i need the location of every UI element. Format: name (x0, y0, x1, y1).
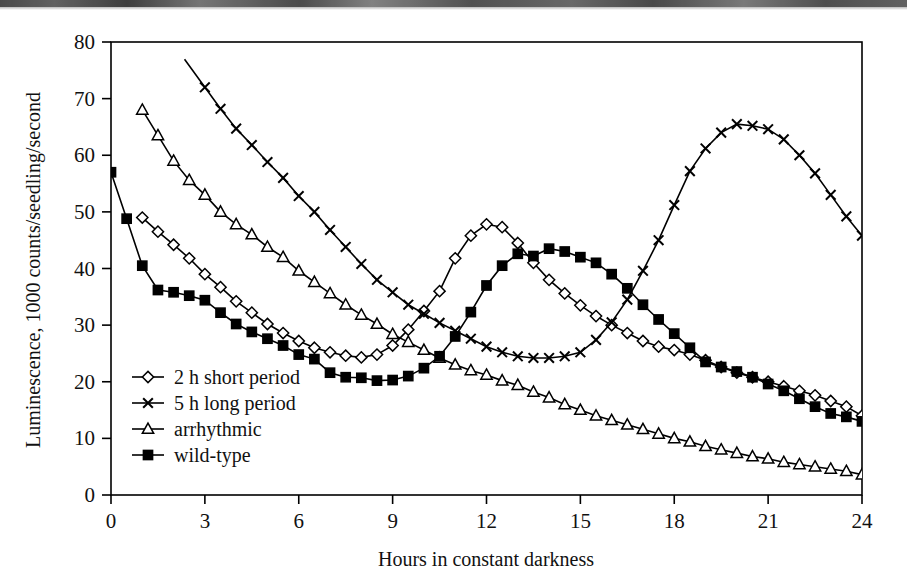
data-point-cross-x (497, 347, 507, 357)
legend-label: arrhythmic (174, 418, 262, 441)
data-point-filled-square (388, 375, 397, 384)
data-point-open-triangle (168, 155, 179, 165)
data-point-filled-square (185, 291, 194, 300)
data-point-open-triangle (309, 276, 320, 286)
data-point-cross-x (779, 135, 789, 145)
data-point-open-triangle (230, 218, 241, 228)
data-point-open-triangle (418, 344, 429, 354)
data-point-open-triangle (340, 299, 351, 309)
legend-label: 5 h long period (174, 392, 296, 415)
data-point-cross-x (654, 235, 664, 245)
data-point-filled-square (341, 373, 350, 382)
data-point-open-triangle (387, 328, 398, 338)
data-point-open-diamond (653, 341, 664, 352)
data-point-filled-square (623, 284, 632, 293)
data-point-open-triangle (559, 398, 570, 408)
data-point-filled-square (544, 244, 553, 253)
data-point-cross-x (294, 191, 304, 201)
data-point-filled-square (122, 214, 131, 223)
data-point-filled-square (404, 371, 413, 380)
data-point-filled-square (169, 288, 178, 297)
data-point-cross-x (826, 190, 836, 200)
data-point-filled-square (779, 386, 788, 395)
series-5-h-long-period (185, 59, 867, 362)
data-point-filled-square (638, 300, 647, 309)
x-tick-label: 6 (294, 509, 305, 533)
data-point-cross-x (466, 334, 476, 344)
data-point-open-diamond (278, 327, 289, 338)
data-point-filled-square (842, 412, 851, 421)
data-point-filled-square (685, 343, 694, 352)
data-point-open-diamond (590, 310, 601, 321)
data-point-open-diamond (465, 230, 476, 241)
data-point-cross-x (200, 82, 210, 92)
y-tick-label: 60 (74, 143, 95, 167)
data-point-cross-x (576, 347, 586, 357)
data-point-filled-square (654, 315, 663, 324)
data-point-open-diamond (262, 318, 273, 329)
data-point-cross-x (591, 335, 601, 345)
data-point-open-triangle (356, 309, 367, 319)
x-axis-ticks (111, 495, 862, 504)
data-point-cross-x (278, 173, 288, 183)
data-point-filled-square (263, 334, 272, 343)
legend-item-2-h-short-period[interactable]: 2 h short period (132, 366, 300, 389)
data-point-cross-x (842, 212, 852, 222)
data-point-open-triangle (403, 336, 414, 346)
data-point-open-triangle (277, 251, 288, 261)
data-point-open-diamond (356, 352, 367, 363)
data-point-filled-square (670, 329, 679, 338)
data-point-cross-x (403, 300, 413, 310)
data-point-open-triangle (528, 386, 539, 396)
data-point-open-diamond (293, 335, 304, 346)
y-tick-label: 20 (74, 370, 95, 394)
y-tick-label: 40 (74, 257, 95, 281)
data-point-filled-square (310, 355, 319, 364)
data-point-filled-square (764, 379, 773, 388)
data-point-filled-square (279, 341, 288, 350)
data-point-open-diamond (142, 371, 153, 382)
data-point-cross-x (435, 318, 445, 328)
data-point-open-diamond (637, 335, 648, 346)
data-point-filled-square (810, 402, 819, 411)
data-point-open-diamond (481, 219, 492, 230)
data-point-open-diamond (825, 395, 836, 406)
data-point-filled-square (419, 364, 428, 373)
data-point-cross-x (701, 144, 711, 154)
legend-item-5-h-long-period[interactable]: 5 h long period (132, 392, 296, 415)
y-tick-label: 0 (85, 483, 96, 507)
x-tick-label: 24 (852, 509, 874, 533)
data-point-filled-square (795, 394, 804, 403)
data-point-filled-square (466, 308, 475, 317)
data-point-open-triangle (262, 241, 273, 251)
legend-item-wild-type[interactable]: wild-type (132, 444, 251, 467)
chart-legend: 2 h short period5 h long periodarrhythmi… (132, 366, 300, 467)
legend-label: 2 h short period (174, 366, 300, 389)
data-point-cross-x (216, 104, 226, 114)
data-point-filled-square (732, 367, 741, 376)
y-axis-tick-labels: 01020304050607080 (74, 30, 95, 507)
data-point-open-diamond (309, 342, 320, 353)
data-point-filled-square (748, 373, 757, 382)
data-point-cross-x (795, 150, 805, 160)
legend-item-arrhythmic[interactable]: arrhythmic (132, 418, 262, 441)
data-point-filled-square (607, 270, 616, 279)
data-point-filled-square (576, 253, 585, 262)
data-point-filled-square (482, 281, 491, 290)
data-point-filled-square (232, 319, 241, 328)
data-point-cross-x (247, 140, 257, 150)
data-point-open-triangle (450, 359, 461, 369)
data-point-cross-x (310, 207, 320, 217)
data-point-cross-x (622, 295, 632, 305)
data-point-filled-square (717, 362, 726, 371)
data-point-open-triangle (142, 423, 153, 433)
y-tick-label: 10 (74, 426, 95, 450)
data-point-filled-square (435, 352, 444, 361)
series-line (185, 59, 862, 358)
y-axis-ticks (102, 42, 111, 495)
data-point-filled-square (325, 368, 334, 377)
x-tick-label: 15 (570, 509, 591, 533)
figure-container: 01020304050607080 03691215182124 Hours i… (0, 0, 907, 588)
data-point-filled-square (138, 261, 147, 270)
y-tick-label: 80 (74, 30, 95, 54)
